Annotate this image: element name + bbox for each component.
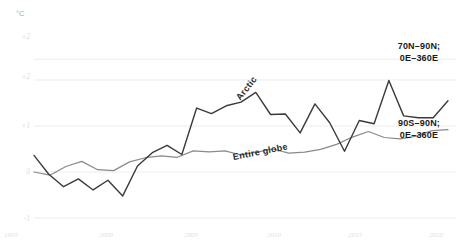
legend-arctic-line1: 70N–90N;: [382, 41, 456, 53]
legend-entire-globe: 90S–90N; 0E–360E: [382, 118, 456, 141]
legend-arctic: 70N–90N; 0E–360E: [382, 41, 456, 64]
legend-globe-line1: 90S–90N;: [382, 118, 456, 130]
temperature-anomaly-chart: °C +2 +2 +1 0 -1 1995 2000 2005 2010 201…: [0, 0, 456, 251]
legend-globe-line2: 0E–360E: [382, 130, 456, 142]
legend-arctic-line2: 0E–360E: [382, 53, 456, 65]
